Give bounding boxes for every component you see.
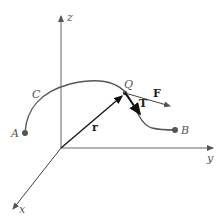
- vector-diagram: z y x C A B Q r F T: [0, 0, 224, 222]
- force-vector-f: [125, 93, 170, 106]
- point-a: [22, 130, 28, 136]
- z-axis-label: z: [66, 11, 73, 24]
- vector-t-label: T: [139, 97, 148, 110]
- tangent-vector-t: [125, 93, 140, 114]
- x-axis: [13, 148, 61, 209]
- vector-f-label: F: [153, 87, 161, 100]
- point-q-label: Q: [124, 78, 133, 91]
- vector-r-label: r: [92, 121, 98, 134]
- y-axis-label: y: [206, 152, 214, 165]
- point-a-label: A: [10, 127, 19, 140]
- x-axis-label: x: [19, 203, 26, 216]
- diagram-canvas: z y x C A B Q r F T: [0, 0, 224, 222]
- curve-c-label: C: [32, 88, 41, 101]
- point-b: [172, 127, 178, 133]
- point-b-label: B: [180, 124, 189, 137]
